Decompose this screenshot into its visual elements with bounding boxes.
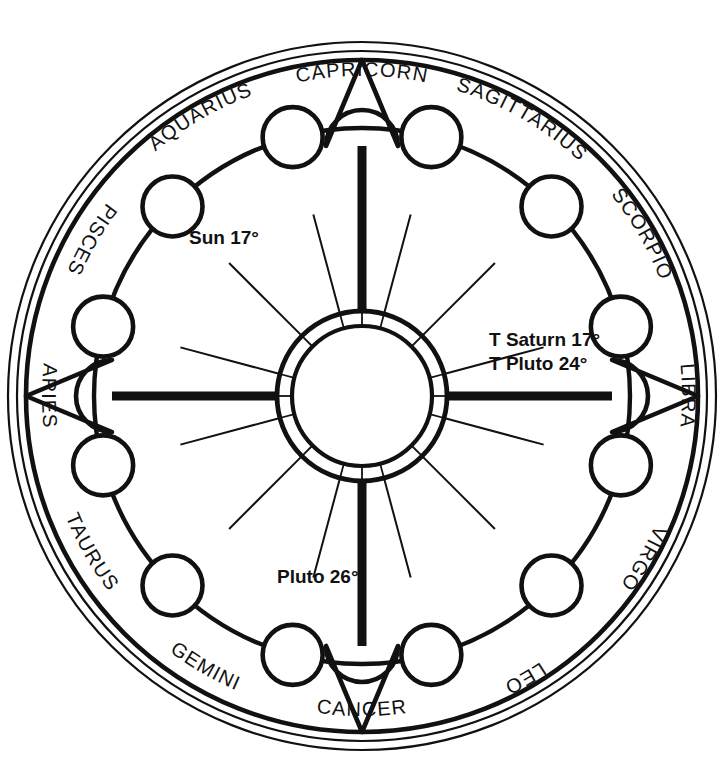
- sign-label-text: ARIES: [38, 363, 62, 430]
- center-hub-group: [277, 311, 447, 481]
- planet-node-circle: [401, 625, 461, 685]
- sun-position-label: Sun 17°: [189, 227, 259, 248]
- planet-node-circle: [522, 177, 582, 237]
- sign-label-text: GEMINI: [167, 637, 244, 694]
- transit-saturn-position-label: T Saturn 17°: [489, 329, 600, 350]
- transit-pluto-position-label: T Pluto 24°: [489, 353, 587, 374]
- sign-label-gemini: GEMINI: [167, 637, 244, 694]
- aspect-spoke: [313, 478, 340, 577]
- aspect-spoke: [444, 418, 543, 445]
- planet-node-circle: [401, 107, 461, 167]
- sign-label-aries: ARIES: [38, 363, 62, 430]
- sign-label-text: PISCES: [63, 200, 121, 279]
- aspect-spoke: [384, 214, 411, 313]
- aspect-spoke: [384, 478, 411, 577]
- aspect-spoke: [422, 456, 495, 529]
- sign-label-virgo: VIRGO: [617, 523, 672, 596]
- aspect-spoke: [313, 214, 340, 313]
- zodiac-wheel-svg: SAGITTARIUSSCORPIOLIBRAVIRGOLEOCANCERGEM…: [0, 0, 723, 779]
- hub-inner-ring: [292, 326, 432, 466]
- zodiac-wheel-chart: SAGITTARIUSSCORPIOLIBRAVIRGOLEOCANCERGEM…: [0, 0, 723, 779]
- planet-node-circle: [263, 625, 323, 685]
- planet-node-circle: [143, 556, 203, 616]
- sign-label-libra: LIBRA: [676, 363, 700, 430]
- aspect-spoke: [180, 418, 279, 445]
- planet-node-circle: [73, 297, 133, 357]
- aspect-spoke: [422, 263, 495, 336]
- planet-node-circle: [263, 107, 323, 167]
- planet-node-circle: [591, 435, 651, 495]
- sign-label-pisces: PISCES: [63, 200, 121, 279]
- aspect-spoke: [229, 263, 302, 336]
- sign-label-text: VIRGO: [617, 523, 672, 596]
- planet-node-circle: [73, 435, 133, 495]
- sign-label-leo: LEO: [501, 658, 550, 699]
- sign-label-text: LIBRA: [676, 363, 700, 430]
- natal-pluto-position-label: Pluto 26°: [277, 566, 359, 587]
- sign-label-text: LEO: [501, 658, 550, 699]
- aspect-spoke: [229, 456, 302, 529]
- aspect-spoke: [180, 347, 279, 374]
- planet-node-circle: [522, 556, 582, 616]
- cardinal-pointer: [326, 646, 398, 732]
